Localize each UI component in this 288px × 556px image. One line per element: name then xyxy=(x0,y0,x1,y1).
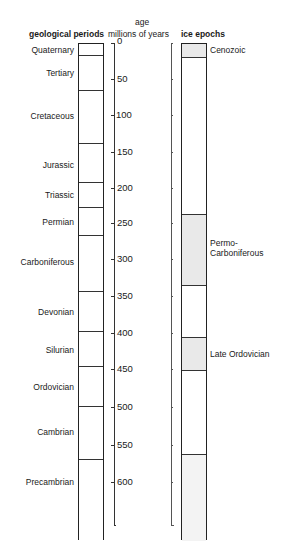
axis-tick xyxy=(111,482,114,483)
period-label: Cambrian xyxy=(37,427,74,437)
period-carboniferous xyxy=(79,235,103,291)
ice-scale-tick xyxy=(171,115,173,116)
period-cretaceous xyxy=(79,90,103,143)
geological-periods-column xyxy=(78,43,104,540)
period-ordovician xyxy=(79,366,103,406)
period-label: Carboniferous xyxy=(21,257,74,267)
ice-epoch-precambrian xyxy=(182,454,206,541)
period-triassic xyxy=(79,182,103,207)
axis-tick xyxy=(111,79,114,80)
ice-epoch-label: Cenozoic xyxy=(210,45,245,55)
period-label: Devonian xyxy=(38,307,74,317)
axis-tick-label: 300 xyxy=(117,254,133,264)
period-cambrian xyxy=(79,406,103,459)
axis-tick xyxy=(111,223,114,224)
age-axis-line xyxy=(114,43,115,525)
axis-tick-label: 100 xyxy=(116,110,132,120)
axis-tick-label: 600 xyxy=(117,477,133,487)
age-heading: age xyxy=(135,17,149,27)
period-permian xyxy=(79,207,103,235)
axis-tick-label: 450 xyxy=(117,364,133,374)
period-jurassic xyxy=(79,143,103,182)
ice-scale-tick xyxy=(171,407,173,408)
period-label: Permian xyxy=(42,217,74,227)
axis-tick-label: 50 xyxy=(117,74,128,84)
ice-epochs-heading: ice epochs xyxy=(181,29,225,39)
period-label: Silurian xyxy=(46,345,74,355)
axis-tick xyxy=(111,152,114,153)
ice-epoch-permo-carboniferous xyxy=(182,214,206,286)
period-label: Precambrian xyxy=(26,477,74,487)
ice-scale-tick xyxy=(171,79,173,80)
period-devonian xyxy=(79,291,103,331)
axis-tick xyxy=(111,115,114,116)
ice-scale-tick xyxy=(171,223,173,224)
axis-tick xyxy=(111,445,114,446)
axis-tick xyxy=(111,333,114,334)
axis-tick-label: 400 xyxy=(117,328,133,338)
axis-tick xyxy=(111,259,114,260)
period-silurian xyxy=(79,331,103,366)
axis-tick-label: 350 xyxy=(117,291,133,301)
period-tertiary xyxy=(79,55,103,90)
axis-tick xyxy=(111,369,114,370)
ice-epoch-late-ordovician xyxy=(182,337,206,371)
period-precambrian xyxy=(79,459,103,540)
axis-tick-label: 0 xyxy=(117,36,122,46)
ice-scale-tick xyxy=(171,152,173,153)
period-label: Tertiary xyxy=(46,68,74,78)
ice-scale-tick xyxy=(171,188,173,189)
ice-scale-tick xyxy=(171,482,173,483)
axis-tick-label: 200 xyxy=(117,183,133,193)
axis-tick-label: 550 xyxy=(117,440,133,450)
geological-periods-heading: geological periods xyxy=(29,29,104,39)
ice-scale-tick xyxy=(171,369,173,370)
ice-scale-tick xyxy=(171,296,173,297)
period-label: Ordovician xyxy=(33,382,74,392)
ice-scale-end-tick xyxy=(171,525,174,526)
period-label: Cretaceous xyxy=(31,111,74,121)
axis-tick-label: 500 xyxy=(117,402,133,412)
axis-tick xyxy=(111,188,114,189)
ice-scale-top-tick xyxy=(171,43,173,44)
ice-epoch-label: Carboniferous xyxy=(210,248,263,258)
ice-scale-tick xyxy=(171,259,173,260)
axis-end-tick xyxy=(114,525,116,526)
axis-tick xyxy=(111,296,114,297)
ice-epoch-label: Permo- xyxy=(210,238,238,248)
ice-epochs-column xyxy=(181,43,207,540)
period-label: Triassic xyxy=(45,190,74,200)
axis-tick xyxy=(111,43,114,44)
ice-epoch-cenozoic xyxy=(182,44,206,58)
axis-tick-label: 250 xyxy=(117,218,133,228)
period-quaternary xyxy=(79,43,103,55)
period-label: Quaternary xyxy=(31,45,74,55)
ice-scale-tick xyxy=(171,333,173,334)
ice-epoch-label: Late Ordovician xyxy=(210,349,270,359)
period-label: Jurassic xyxy=(43,160,74,170)
axis-tick-label: 150 xyxy=(117,147,133,157)
axis-tick xyxy=(111,407,114,408)
ice-scale-tick xyxy=(171,445,173,446)
